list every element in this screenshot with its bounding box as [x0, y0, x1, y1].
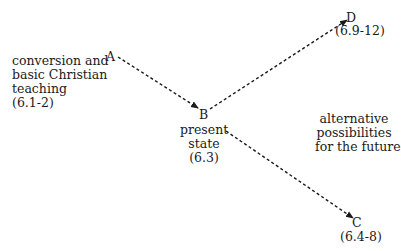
- node-a-line-3: teaching: [12, 82, 108, 96]
- node-b-line-3: (6.3): [180, 151, 228, 165]
- node-c-reference: (6.4-8): [340, 230, 382, 244]
- annotation-line-2: possibilities: [315, 126, 393, 140]
- future-annotation: alternative possibilities for the future: [315, 112, 393, 154]
- node-c-label: C: [352, 216, 362, 230]
- edge-a-to-b: [118, 57, 198, 108]
- annotation-line-3: for the future: [315, 140, 393, 154]
- node-a-label: A: [106, 50, 115, 64]
- node-b-label: B: [199, 108, 208, 122]
- node-a-line-1: conversion and: [12, 54, 108, 68]
- node-a-line-2: basic Christian: [12, 68, 108, 82]
- node-b-line-1: present: [180, 123, 228, 137]
- edge-b-to-d: [210, 20, 347, 109]
- node-a-description: conversion and basic Christian teaching …: [12, 54, 108, 110]
- node-a-line-4: (6.1-2): [12, 96, 108, 110]
- annotation-line-1: alternative: [315, 112, 393, 126]
- node-b-description: present state (6.3): [180, 123, 228, 165]
- node-b-line-2: state: [180, 137, 228, 151]
- node-d-reference: (6.9-12): [335, 24, 385, 38]
